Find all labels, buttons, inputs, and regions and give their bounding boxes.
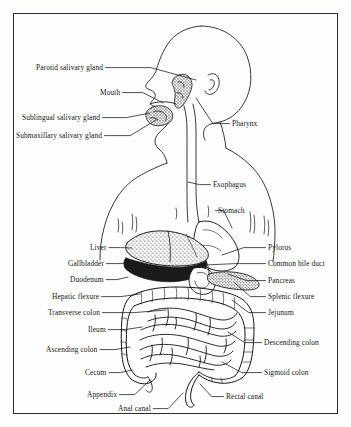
small-intestine-coils: [140, 308, 237, 370]
label-mouth: Mouth: [100, 88, 120, 97]
parotid-salivary-gland-shape: [172, 74, 192, 108]
leader-sublingual-salivary-gland: [103, 113, 150, 118]
label-rectal-canal: Rectal canal: [226, 392, 264, 401]
large-intestine: [121, 287, 254, 407]
appendix-shape: [146, 377, 152, 392]
label-anal-canal: Anal canal: [118, 404, 151, 413]
head-profile: [146, 26, 251, 163]
label-sigmoid-colon: Sigmoid colon: [264, 368, 309, 377]
label-gallbladder: Gallbladder: [68, 259, 104, 268]
label-hepatic-flexure: Hepatic flexure: [52, 292, 99, 301]
leader-anal-canal: [153, 393, 183, 409]
anatomical-tick-marks: [118, 206, 269, 236]
label-duodenum: Duodenum: [70, 275, 104, 284]
label-pylorus: Pylorus: [268, 243, 291, 252]
leader-pharynx: [196, 98, 230, 124]
label-common-bile-duct: Common bile duct: [268, 259, 325, 268]
label-liver: Liver: [90, 243, 107, 252]
label-pancreas: Pancreas: [268, 276, 295, 285]
leader-ascending-colon: [100, 347, 130, 350]
label-splenic-flexure: Splenic flexure: [268, 292, 314, 301]
label-submaxillary-salivary-gland: Submaxillary salivary gland: [16, 131, 102, 140]
label-transverse-colon: Transverse colon: [48, 308, 100, 317]
leader-sigmoid-colon: [222, 362, 262, 373]
label-jejunum: Jejunum: [268, 308, 294, 317]
leader-duodenum: [106, 277, 128, 280]
leader-cecum: [109, 370, 132, 373]
label-pharynx: Pharynx: [232, 119, 257, 128]
leader-submaxillary-salivary-gland: [105, 120, 156, 136]
diagram-page: Parotid salivary glandMouthSublingual sa…: [0, 0, 351, 427]
sublingual-and-submaxillary-gland-shape: [146, 106, 173, 126]
label-sublingual-salivary-gland: Sublingual salivary gland: [22, 113, 100, 122]
label-appendix: Appendix: [87, 390, 117, 399]
leader-esophagus: [188, 182, 211, 185]
leader-rectal-canal: [200, 384, 224, 397]
label-descending-colon: Descending colon: [264, 338, 319, 347]
leader-appendix: [119, 380, 150, 395]
label-cecum: Cecum: [85, 368, 106, 377]
label-stomach: Stomach: [218, 206, 245, 215]
leader-ileum: [108, 327, 142, 330]
label-esophagus: Esophagus: [213, 180, 246, 189]
leader-transverse-colon: [103, 310, 166, 313]
label-ileum: Ileum: [88, 325, 106, 334]
label-ascending-colon: Ascending colon: [46, 345, 97, 354]
pharynx-esophagus: [184, 104, 199, 222]
leader-mouth: [123, 93, 163, 103]
leader-gallbladder: [107, 263, 129, 264]
label-parotid-salivary-gland: Parotid salivary gland: [36, 63, 103, 72]
